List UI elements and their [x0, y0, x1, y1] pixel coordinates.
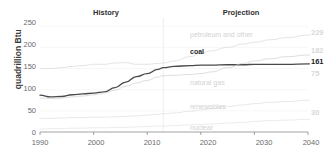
y-tick-label: 200: [14, 41, 36, 49]
series-label-petroleum-and-other: petroleum and other: [190, 31, 253, 38]
series-label-nuclear: nuclear: [190, 124, 213, 131]
x-tick-label: 2030: [249, 139, 279, 147]
x-tick-label: 2000: [81, 139, 111, 147]
x-tick-label: 2010: [137, 139, 167, 147]
history-label: History: [76, 9, 136, 17]
series-line-renewables: [40, 100, 308, 118]
series-line-natural-gas: [40, 55, 308, 99]
y-tick-label: 150: [14, 63, 36, 71]
end-value-renewables: 75: [311, 70, 319, 78]
series-label-natural-gas: natural gas: [190, 79, 225, 86]
series-line-nuclear: [40, 119, 308, 129]
end-value-coal: 161: [311, 58, 324, 66]
energy-consumption-line-chart: quadrillion Btu 0 50 100 150 200 250 199…: [0, 0, 329, 155]
y-tick-label: 0: [14, 129, 36, 137]
y-tick-label: 250: [14, 19, 36, 27]
plot-area: [0, 0, 329, 155]
y-tick-label: 50: [14, 107, 36, 115]
end-value-natural-gas: 182: [311, 47, 324, 55]
series-label-renewables: renewables: [190, 103, 226, 110]
x-tick-label: 2020: [193, 139, 223, 147]
x-tick-label: 2040: [296, 139, 326, 147]
x-tick-label: 1990: [25, 139, 55, 147]
projection-label: Projection: [211, 9, 271, 17]
series-line-petroleum-and-other: [40, 35, 308, 68]
end-value-petroleum-and-other: 229: [311, 29, 324, 37]
y-tick-label: 100: [14, 85, 36, 93]
series-label-coal: coal: [190, 48, 204, 55]
end-value-nuclear: 30: [311, 109, 319, 117]
